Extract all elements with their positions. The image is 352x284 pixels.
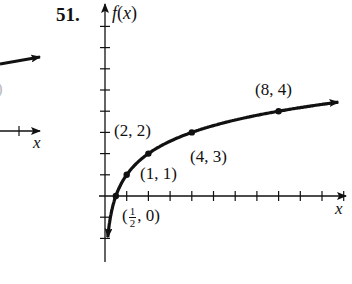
data-point: [145, 150, 151, 156]
paren-fragment: ): [0, 80, 3, 97]
data-point: [124, 172, 130, 178]
x-axis-label: x: [335, 200, 343, 217]
point-label-8-4: (8, 4): [255, 81, 292, 98]
point-label-4-3: (4, 3): [190, 148, 227, 165]
data-point: [189, 129, 195, 135]
y-axis-label: f(x): [112, 4, 137, 22]
point-label-1-1: (1, 1): [140, 165, 177, 182]
left-graph-fragment: [0, 57, 40, 136]
graph-canvas: [0, 0, 352, 284]
data-point: [275, 108, 281, 114]
data-point: [113, 193, 119, 199]
left-x-axis-label: x: [33, 134, 41, 151]
function-curve-asymptote: [108, 196, 116, 237]
problem-number: 51.: [56, 5, 80, 24]
point-label-half-0: (12, 0): [122, 206, 160, 229]
point-label-2-2: (2, 2): [114, 122, 151, 139]
